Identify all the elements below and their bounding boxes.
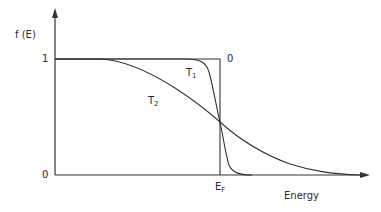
- ef-label-sub: F: [221, 186, 225, 194]
- t1-label-sub: 1: [192, 72, 196, 80]
- series-t2-curve: [55, 59, 360, 175]
- y-tick-1: 1: [42, 54, 48, 64]
- fermi-dirac-plot: [0, 0, 381, 212]
- y-tick-0: 0: [42, 170, 48, 180]
- y-axis-arrow-icon: [52, 8, 58, 18]
- y-axis-label: f (E): [15, 30, 36, 40]
- t0-label: 0: [227, 54, 233, 64]
- x-axis-label: Energy: [284, 191, 319, 201]
- x-axis-arrow-icon: [360, 172, 370, 178]
- fermi-energy-label: EF: [215, 182, 225, 195]
- series-t1-curve: [55, 59, 252, 175]
- t1-label: T1: [186, 68, 197, 81]
- t2-label-sub: 2: [154, 100, 158, 108]
- t2-label: T2: [148, 96, 159, 109]
